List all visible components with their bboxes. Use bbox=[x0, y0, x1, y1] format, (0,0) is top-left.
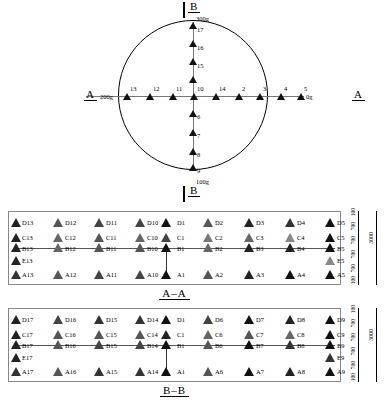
section-bb-label-d-1: D16 bbox=[65, 316, 76, 323]
section-aa-dim-total-line bbox=[376, 211, 377, 285]
section-aa-label-d-4: D1 bbox=[177, 219, 185, 226]
section-bb-dim-seg-2: 700 bbox=[350, 333, 356, 341]
section-bb-caption: B–B bbox=[8, 384, 341, 396]
section-aa-dim-seg-1: 700 bbox=[350, 222, 356, 230]
plan-sensor-v-up-3 bbox=[189, 76, 197, 83]
section-bb-label-b-6: B7 bbox=[256, 342, 264, 349]
plan-sensor-h-label-0: 13 bbox=[130, 85, 137, 92]
section-aa-dim-total: 3000 bbox=[368, 232, 374, 244]
section-aa-label-a-2: A11 bbox=[106, 271, 117, 278]
plan-sensor-v-down-label-3: 9 bbox=[197, 167, 200, 174]
section-bb-dim-seg-5: 100 bbox=[350, 373, 356, 381]
plan-sensor-h-label-6: 3 bbox=[263, 85, 266, 92]
section-bb-label-b-0: B17 bbox=[22, 342, 33, 349]
section-bb-label-b-8: B9 bbox=[337, 342, 345, 349]
section-tick-top bbox=[183, 2, 185, 18]
section-bb-dim-total: 3000 bbox=[368, 329, 374, 341]
section-bb-label-c-7: C8 bbox=[297, 331, 305, 338]
section-aa-caption-label: A–A bbox=[159, 287, 189, 300]
section-aa-label-b-6: B3 bbox=[256, 245, 264, 252]
section-bb-dim-total-line bbox=[376, 308, 377, 382]
section-aa-label-d-7: D4 bbox=[297, 219, 305, 226]
section-bb-label-b-2: B15 bbox=[106, 342, 117, 349]
section-bb-label-c-8: C9 bbox=[337, 331, 345, 338]
section-mark-right-label: A bbox=[352, 88, 365, 101]
section-aa-label-a-1: A12 bbox=[65, 271, 76, 278]
section-bb-label-e-0: E17 bbox=[22, 354, 32, 361]
plan-sensor-h-label-8: 5 bbox=[304, 85, 307, 92]
section-aa-dim-seg-4: 700 bbox=[350, 264, 356, 272]
section-aa-label-a-0: A13 bbox=[22, 271, 33, 278]
section-bb-label-c-1: C16 bbox=[65, 331, 76, 338]
section-bb-label-d-6: D7 bbox=[256, 316, 264, 323]
section-bb-label-d-3: D14 bbox=[147, 316, 158, 323]
section-aa-label-c-4: C1 bbox=[177, 234, 185, 241]
section-bb-label-d-4: D1 bbox=[177, 316, 185, 323]
section-aa-label-d-5: D2 bbox=[215, 219, 223, 226]
section-mark-left-label: A bbox=[84, 88, 97, 101]
section-bb-label-a-6: A7 bbox=[256, 368, 264, 375]
section-bb-label-c-5: C6 bbox=[215, 331, 223, 338]
section-aa-box: D13 D12 D11 D10 D1 D2 D3 D4 D5 C13 C12 C… bbox=[8, 211, 341, 285]
section-aa-label-d-0: D13 bbox=[22, 219, 33, 226]
section-aa-label-e-0: E13 bbox=[22, 257, 32, 264]
section-mark-top-label: B bbox=[188, 0, 200, 13]
section-bb-dim-chain-line bbox=[358, 308, 359, 382]
section-aa-label-a-8: A5 bbox=[337, 271, 345, 278]
section-bb-label-d-2: D15 bbox=[106, 316, 117, 323]
section-tick-bottom bbox=[183, 186, 185, 202]
section-aa-label-b-7: B4 bbox=[297, 245, 305, 252]
section-aa-label-a-7: A4 bbox=[297, 271, 305, 278]
plan-sensor-v-down-label-2: 8 bbox=[197, 151, 200, 158]
weight-top: 300g bbox=[196, 15, 209, 22]
section-bb-label-d-8: D9 bbox=[337, 316, 345, 323]
section-bb-label-d-5: D6 bbox=[215, 316, 223, 323]
section-aa-label-b-1: B12 bbox=[65, 245, 76, 252]
section-aa-label-c-2: C11 bbox=[106, 234, 117, 241]
section-bb-dim-seg-1: 700 bbox=[350, 319, 356, 327]
section-bb-label-c-0: C17 bbox=[22, 331, 33, 338]
section-bb-label-a-1: A16 bbox=[65, 368, 76, 375]
section-bb-label-c-3: C14 bbox=[147, 331, 158, 338]
section-aa-label-a-4: A1 bbox=[177, 271, 185, 278]
section-bb-label-a-0: A17 bbox=[22, 368, 33, 375]
plan-sensor-h-label-3: 10 bbox=[197, 85, 204, 92]
section-aa-label-b-0: B13 bbox=[22, 245, 33, 252]
section-aa-label-b-4: B1 bbox=[177, 245, 185, 252]
section-aa-dim-seg-5: 100 bbox=[350, 276, 356, 284]
section-bb-label-a-3: A14 bbox=[147, 368, 158, 375]
plan-sensor-v-up-label-2: 15 bbox=[197, 62, 204, 69]
plan-sensor-v-down-label-0: 6 bbox=[197, 113, 200, 120]
weight-right: 0g bbox=[306, 93, 313, 100]
section-bb-label-c-2: C15 bbox=[106, 331, 117, 338]
plan-view: B B A A 300g 100g 200g 0g 13 12 11 10 14… bbox=[0, 0, 388, 205]
section-bb-label-d-7: D8 bbox=[297, 316, 305, 323]
plan-sensor-h-label-4: 14 bbox=[219, 85, 226, 92]
section-bb-caption-label: B–B bbox=[160, 384, 189, 397]
section-bb-label-a-7: A8 bbox=[297, 368, 305, 375]
plan-sensor-v-up-label-1: 16 bbox=[197, 44, 204, 51]
section-aa-label-c-3: C10 bbox=[147, 234, 158, 241]
section-bb-dim-seg-0: 100 bbox=[350, 305, 356, 313]
section-bb-label-e-1: E9 bbox=[337, 354, 344, 361]
section-aa-label-d-6: D3 bbox=[256, 219, 264, 226]
section-bb-label-b-3: B14 bbox=[147, 342, 158, 349]
plan-sensor-v-down-label-1: 7 bbox=[197, 132, 200, 139]
section-aa-label-b-2: B11 bbox=[106, 245, 117, 252]
section-aa-label-a-6: A3 bbox=[256, 271, 264, 278]
section-aa-dim-seg-0: 100 bbox=[350, 208, 356, 216]
section-aa-caption: A–A bbox=[8, 287, 341, 299]
section-bb-label-a-4: A1 bbox=[177, 368, 185, 375]
plan-sensor-h-label-1: 12 bbox=[153, 85, 160, 92]
section-bb-label-b-4: B1 bbox=[177, 342, 185, 349]
plan-sensor-v-up-label-0: 17 bbox=[197, 26, 204, 33]
section-aa-label-e-1: E5 bbox=[337, 257, 344, 264]
section-bb-dim-seg-4: 700 bbox=[350, 361, 356, 369]
section-aa-label-c-6: C3 bbox=[256, 234, 264, 241]
section-aa-label-c-8: C5 bbox=[337, 234, 345, 241]
section-aa-label-c-5: C2 bbox=[215, 234, 223, 241]
section-bb-label-a-8: A9 bbox=[337, 368, 345, 375]
weight-bottom: 100g bbox=[196, 178, 209, 185]
section-aa-label-d-1: D12 bbox=[65, 219, 76, 226]
section-bb-label-a-2: A15 bbox=[106, 368, 117, 375]
